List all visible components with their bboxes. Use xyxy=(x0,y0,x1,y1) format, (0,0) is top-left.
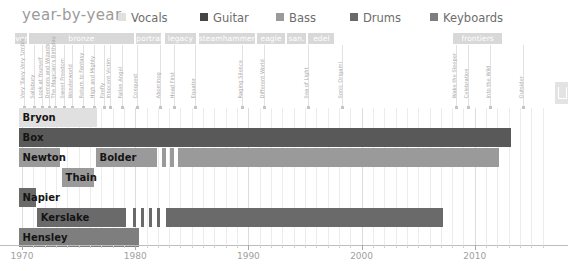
album-tick[interactable]: Different World xyxy=(264,45,265,108)
chart-lane: Kerslake xyxy=(0,208,568,227)
album-tick[interactable]: Raging Silence xyxy=(242,45,243,108)
album-tick[interactable]: Salisbury xyxy=(34,45,35,108)
album-label: Wake the Sleeper xyxy=(451,52,456,98)
album-tick[interactable]: Wonderworld xyxy=(72,45,73,108)
album-label: The Magician's Birthday xyxy=(50,36,55,98)
album-tick[interactable]: Celebration xyxy=(468,45,469,108)
era-band[interactable]: bronze xyxy=(29,33,134,44)
era-band[interactable]: legacy xyxy=(165,33,197,44)
legend-item-guitar[interactable]: Guitar xyxy=(200,8,249,22)
album-label: Sweet Freedom xyxy=(59,58,64,98)
album-tick[interactable]: Head First xyxy=(174,45,175,108)
era-band[interactable]: edel xyxy=(308,33,334,44)
album-label: Salisbury xyxy=(30,74,35,98)
era-band[interactable]: frontiers xyxy=(453,33,502,44)
axis-tick xyxy=(101,245,102,248)
album-label: Conquest xyxy=(133,73,138,98)
chart-lane: Napier xyxy=(0,188,568,207)
legend-label: Keyboards xyxy=(443,11,503,25)
axis-tick xyxy=(33,245,34,248)
axis-tick xyxy=(271,245,272,248)
timeline-bar[interactable] xyxy=(157,208,160,227)
axis-tick xyxy=(463,245,464,248)
axis-tick xyxy=(339,245,340,248)
era-band[interactable]: eagle xyxy=(257,33,284,44)
axis-tick xyxy=(497,245,498,248)
axis-tick xyxy=(135,245,136,250)
axis-tick xyxy=(192,245,193,248)
album-tick[interactable]: Outsider xyxy=(523,45,524,108)
axis-tick xyxy=(79,245,80,248)
axis-tick xyxy=(509,245,510,248)
timeline-bar[interactable] xyxy=(162,148,165,167)
timeline-bar[interactable] xyxy=(141,208,144,227)
album-label: Equator xyxy=(191,78,196,98)
axis-tick-label: 2000 xyxy=(350,251,373,261)
album-tick[interactable]: Fallen Angel xyxy=(122,45,123,108)
timeline-bar[interactable] xyxy=(170,148,173,167)
legend-item-vocals[interactable]: Vocals xyxy=(118,8,168,22)
chart-lane: NewtonBolder xyxy=(0,148,568,167)
era-band[interactable]: portrait xyxy=(136,33,161,44)
axis-tick xyxy=(418,245,419,248)
axis-tick xyxy=(214,245,215,248)
era-band[interactable]: steamhammer xyxy=(199,33,256,44)
era-band[interactable]: san. xyxy=(287,33,306,44)
legend-item-keyboards[interactable]: Keyboards xyxy=(430,8,503,22)
album-tick[interactable]: Sweet Freedom xyxy=(64,45,65,108)
album-tick[interactable]: Very 'Eavy Very 'Umble xyxy=(24,45,25,108)
bar-label: Newton xyxy=(23,148,66,167)
axis-tick xyxy=(124,245,125,248)
album-tick[interactable]: Wake the Sleeper xyxy=(456,45,457,108)
album-label: Sea of Light xyxy=(304,67,309,98)
timeline-bar[interactable] xyxy=(166,208,443,227)
album-tick[interactable]: Sonic Origami xyxy=(342,45,343,108)
axis-tick xyxy=(282,245,283,248)
album-tick-labels: Very 'Eavy Very 'UmbleSalisburyLook at Y… xyxy=(0,45,568,108)
album-tick[interactable]: Into the Wild xyxy=(490,45,491,108)
axis-tick xyxy=(407,245,408,248)
timeline-bar[interactable] xyxy=(178,148,498,167)
axis-tick xyxy=(475,245,476,250)
album-label: Into the Wild xyxy=(485,65,490,98)
legend-label: Bass xyxy=(289,11,316,25)
axis-tick xyxy=(90,245,91,248)
album-tick[interactable]: Sea of Light xyxy=(308,45,309,108)
axis-tick xyxy=(452,245,453,248)
album-stem xyxy=(195,45,196,108)
axis-tick xyxy=(316,245,317,248)
album-label: Sonic Origami xyxy=(338,62,343,98)
axis-tick xyxy=(260,245,261,248)
album-tick[interactable]: High and Mighty xyxy=(94,45,95,108)
album-tick[interactable]: Innocent Victim xyxy=(110,45,111,108)
axis-tick xyxy=(67,245,68,248)
x-axis: 19701980199020002010 xyxy=(0,245,568,271)
axis-tick xyxy=(169,245,170,248)
era-band-row: ver.bronzeportraitlegacysteamhammereagle… xyxy=(0,33,568,44)
panel-toggle-button[interactable] xyxy=(555,82,568,104)
axis-tick-label: 1990 xyxy=(237,251,260,261)
axis-tick xyxy=(373,245,374,248)
legend-item-drums[interactable]: Drums xyxy=(350,8,401,22)
axis-tick xyxy=(350,245,351,248)
album-label: High and Mighty xyxy=(90,55,95,98)
album-label: Wonderworld xyxy=(67,64,72,98)
album-tick[interactable]: Equator xyxy=(195,45,196,108)
album-tick[interactable]: Return to Fantasy xyxy=(83,45,84,108)
album-label: Outsider xyxy=(519,76,524,98)
timeline-bar[interactable] xyxy=(149,208,152,227)
axis-tick xyxy=(56,245,57,248)
legend-label: Drums xyxy=(363,11,401,25)
legend-swatch-icon xyxy=(118,13,126,21)
timeline-bar[interactable] xyxy=(19,128,511,147)
axis-tick xyxy=(531,245,532,248)
legend-item-bass[interactable]: Bass xyxy=(276,8,316,22)
panel-toggle-icon xyxy=(558,87,567,99)
album-tick[interactable]: Abominog xyxy=(160,45,161,108)
axis-tick xyxy=(328,245,329,248)
album-tick[interactable]: Conquest xyxy=(137,45,138,108)
album-tick[interactable]: The Magician's Birthday xyxy=(55,45,56,108)
timeline-bar[interactable] xyxy=(133,208,136,227)
album-label: Fallen Angel xyxy=(117,67,122,98)
axis-tick xyxy=(22,245,23,250)
